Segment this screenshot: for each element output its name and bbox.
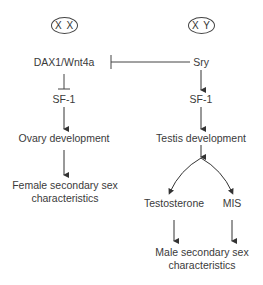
mis-label: MIS [223, 197, 242, 209]
female-outcome-line2: characteristics [31, 192, 98, 204]
arrow-to-mis [201, 158, 232, 192]
testosterone-label: Testosterone [144, 197, 204, 209]
sf1-female-label: SF-1 [53, 93, 76, 105]
sry-label: Sry [193, 56, 209, 68]
male-outcome-line1: Male secondary sex [155, 246, 248, 258]
ovary-development-label: Ovary development [18, 132, 109, 144]
xy-chromosome-node: X Y [188, 17, 215, 34]
dax1-wnt4a-label: DAX1/Wnt4a [34, 56, 95, 68]
testis-development-label: Testis development [156, 132, 246, 144]
arrow-to-testosterone [170, 158, 201, 192]
inhibit-sry-dax1 [111, 55, 190, 69]
female-outcome-line1: Female secondary sex [12, 179, 118, 191]
male-outcome-line2: characteristics [168, 259, 235, 271]
sf1-male-label: SF-1 [190, 93, 213, 105]
inhibit-dax1-sf1 [58, 74, 70, 89]
xx-chromosome-node: X X [51, 17, 78, 34]
